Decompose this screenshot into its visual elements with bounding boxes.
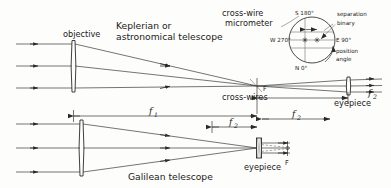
keplerian-telescope-diagram: objective F cross-wires [16, 20, 382, 114]
f2-mid-dimension: f 2 [212, 117, 257, 133]
separation-label: separation [337, 11, 367, 18]
eyepiece-lens-bottom [257, 138, 262, 158]
keplerian-title-line1: Keplerian or [116, 20, 172, 31]
f1-subscript: 1 [154, 111, 158, 118]
position-angle-label-line1: position [336, 48, 359, 55]
micrometer-south-label: S 180° [295, 10, 314, 16]
incoming-parallel-rays-top [16, 44, 72, 88]
position-angle-label-line2: angle [336, 56, 352, 63]
micrometer-north-label: N 0° [295, 65, 308, 71]
f2-mid-subscript: 2 [233, 122, 238, 129]
galilean-title: Galilean telescope [128, 171, 213, 182]
micrometer-label-line2: micrometer [225, 18, 273, 28]
incoming-parallel-rays-bottom [16, 124, 80, 172]
converging-rays-bottom [83, 124, 257, 172]
position-angle-arc [325, 46, 333, 62]
f2-bottom-dimension: f 2 [262, 109, 330, 121]
converging-rays-top [75, 44, 257, 89]
f2-bottom-subscript: 2 [296, 114, 301, 121]
eyepiece-rays-top [257, 79, 382, 92]
binary-label: binary [337, 20, 355, 27]
f2-top-subscript: 2 [372, 93, 377, 100]
keplerian-title-line2: astronomical telescope [116, 31, 223, 42]
cross-wires-label: cross-wires [222, 92, 268, 102]
galilean-telescope-diagram: eyepiece F f 2 Galilean telescope [16, 109, 330, 182]
objective-label: objective [63, 29, 100, 39]
emergent-rays-bottom [262, 141, 291, 156]
micrometer-east-label: E 90° [336, 37, 351, 43]
micrometer-west-label: W 270° [270, 37, 291, 43]
eyepiece-label-top: eyepiece [334, 98, 371, 108]
cross-wire-micrometer-inset: cross-wire micrometer separation binary … [222, 8, 367, 71]
focus-label-bottom: F [285, 159, 289, 167]
figure-canvas: objective F cross-wires [0, 0, 391, 188]
eyepiece-label-bottom: eyepiece [244, 162, 281, 172]
micrometer-label-line1: cross-wire [222, 8, 263, 18]
